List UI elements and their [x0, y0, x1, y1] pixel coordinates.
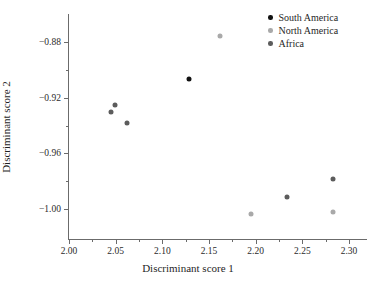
- data-point: [331, 177, 336, 182]
- data-point: [109, 109, 114, 114]
- data-point: [285, 195, 290, 200]
- x-tick-major: [116, 239, 117, 244]
- data-point: [331, 210, 336, 215]
- x-tick-minor: [326, 239, 327, 242]
- legend-marker-icon: [268, 28, 273, 33]
- y-tick-label: −1.00: [39, 204, 61, 214]
- data-point: [187, 76, 192, 81]
- x-tick-minor: [279, 239, 280, 242]
- data-point: [249, 211, 254, 216]
- y-tick-label: −0.88: [39, 37, 61, 47]
- legend-label: South America: [279, 12, 339, 23]
- legend-item[interactable]: North America: [268, 24, 338, 37]
- x-tick-label: 2.15: [201, 246, 218, 256]
- legend-marker-icon: [268, 41, 273, 46]
- legend-label: North America: [279, 25, 339, 36]
- x-tick-major: [302, 239, 303, 244]
- y-tick-minor: [66, 181, 69, 182]
- y-tick-major: [64, 153, 69, 154]
- legend-label: Africa: [279, 38, 305, 49]
- y-tick-major: [64, 98, 69, 99]
- legend-item[interactable]: South America: [268, 11, 338, 24]
- x-tick-label: 2.25: [294, 246, 311, 256]
- x-tick-minor: [186, 239, 187, 242]
- x-tick-minor: [139, 239, 140, 242]
- scatter-plot-figure: −0.88−0.92−0.96−1.00 2.002.052.102.152.2…: [0, 0, 376, 288]
- x-tick-minor: [232, 239, 233, 242]
- x-axis-title: Discriminant score 1: [0, 262, 376, 274]
- x-tick-label: 2.30: [341, 246, 358, 256]
- data-point: [124, 121, 129, 126]
- y-axis-title: Discriminant score 2: [0, 81, 12, 173]
- x-tick-label: 2.10: [154, 246, 171, 256]
- data-point: [112, 102, 117, 107]
- y-tick-major: [64, 42, 69, 43]
- y-tick-minor: [66, 70, 69, 71]
- x-tick-major: [162, 239, 163, 244]
- data-point: [218, 33, 223, 38]
- legend: South AmericaNorth AmericaAfrica: [268, 11, 338, 50]
- x-tick-label: 2.05: [107, 246, 124, 256]
- x-tick-major: [256, 239, 257, 244]
- x-tick-major: [349, 239, 350, 244]
- y-tick-major: [64, 209, 69, 210]
- legend-item[interactable]: Africa: [268, 37, 338, 50]
- y-tick-label: −0.96: [39, 148, 61, 158]
- x-tick-major: [209, 239, 210, 244]
- x-tick-label: 2.00: [61, 246, 78, 256]
- legend-marker-icon: [268, 15, 273, 20]
- x-tick-minor: [92, 239, 93, 242]
- x-tick-major: [69, 239, 70, 244]
- x-tick-label: 2.20: [247, 246, 264, 256]
- y-tick-minor: [66, 126, 69, 127]
- y-tick-label: −0.92: [39, 93, 61, 103]
